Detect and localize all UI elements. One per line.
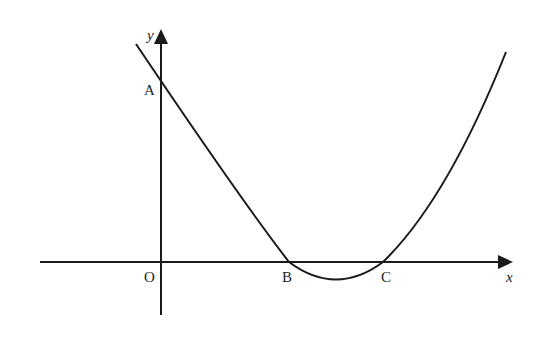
y-axis-label: y — [145, 27, 154, 43]
x-axis-label: x — [505, 269, 513, 285]
origin-label: O — [144, 269, 155, 285]
x-axis-arrow-icon — [498, 255, 513, 269]
y-axis-arrow-icon — [154, 29, 168, 44]
point-c-label: C — [381, 269, 391, 285]
parabola-curve — [136, 44, 506, 280]
point-a-label: A — [144, 82, 155, 98]
parabola-diagram: y x O A B C — [0, 0, 539, 360]
point-b-label: B — [282, 269, 292, 285]
